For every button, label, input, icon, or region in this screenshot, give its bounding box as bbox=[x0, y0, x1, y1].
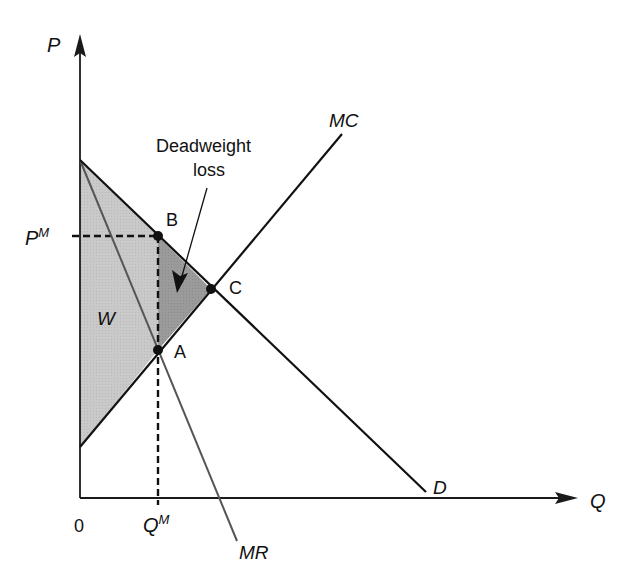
q-axis-label: Q bbox=[590, 490, 606, 512]
demand-label: D bbox=[433, 477, 447, 498]
point-b-marker bbox=[153, 231, 163, 241]
monopoly-diagram: P Q 0 PM QM MC MR D W B C A Deadweight l… bbox=[0, 0, 640, 585]
chart-canvas: P Q 0 PM QM MC MR D W B C A Deadweight l… bbox=[0, 0, 640, 585]
dwl-label-line1: Deadweight bbox=[156, 136, 251, 156]
pm-label-sup: M bbox=[38, 225, 49, 240]
dwl-label-line2: loss bbox=[193, 160, 225, 180]
mc-label: MC bbox=[329, 110, 359, 131]
mr-label: MR bbox=[239, 542, 269, 563]
qm-label-sup: M bbox=[159, 512, 170, 527]
point-a-label: A bbox=[174, 342, 186, 362]
p-axis-label: P bbox=[47, 34, 61, 56]
point-a-marker bbox=[153, 345, 163, 355]
pm-label-base: P bbox=[25, 227, 39, 249]
welfare-region bbox=[80, 160, 158, 447]
dwl-pointer-line bbox=[182, 188, 207, 276]
point-c-label: C bbox=[229, 278, 242, 298]
deadweight-loss-region bbox=[158, 236, 211, 350]
point-b-label: B bbox=[166, 210, 178, 230]
pm-label: PM bbox=[25, 225, 49, 249]
welfare-label: W bbox=[97, 308, 117, 329]
point-c-marker bbox=[206, 284, 216, 294]
qm-label-base: Q bbox=[143, 514, 159, 536]
qm-label: QM bbox=[143, 512, 170, 536]
origin-label: 0 bbox=[74, 516, 84, 536]
